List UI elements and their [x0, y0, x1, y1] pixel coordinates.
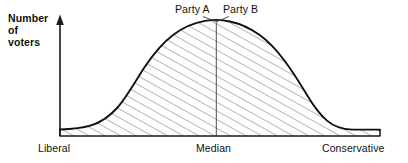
- x-tick-label-conservative: Conservative: [322, 143, 384, 155]
- y-axis-label-line-2: of: [8, 25, 48, 37]
- annotation-label-party-a: Party A: [175, 4, 210, 16]
- y-axis-label-line-3: voters: [8, 37, 48, 49]
- x-tick-label-liberal: Liberal: [38, 143, 70, 155]
- annotation-label-party-b: Party B: [223, 4, 258, 16]
- y-axis-label: Number of voters: [8, 13, 48, 48]
- x-tick-label-median: Median: [196, 143, 231, 155]
- voter-distribution-figure: Number of voters Liberal Median Conserva…: [0, 0, 408, 163]
- y-axis: [56, 15, 64, 137]
- hatched-area-fill: [55, 14, 387, 140]
- distribution-curve-plot: [0, 0, 408, 163]
- y-axis-arrow-icon: [56, 15, 64, 26]
- y-axis-label-line-1: Number: [8, 13, 48, 25]
